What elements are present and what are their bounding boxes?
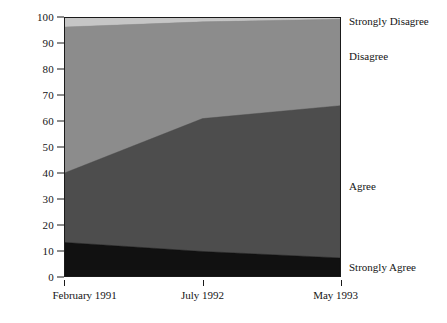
x-tick-mark-2 xyxy=(341,280,342,286)
legend-label-agree: Agree xyxy=(349,180,376,193)
y-tick-mark-100 xyxy=(57,17,64,18)
y-tick-mark-0 xyxy=(57,277,64,278)
y-tick-label-50: 50 xyxy=(43,142,54,153)
stacked-area-chart: 100 90 80 70 60 50 40 30 20 10 0 xyxy=(0,0,447,323)
y-tick-mark-70 xyxy=(57,95,64,96)
legend-label-strongly-agree: Strongly Agree xyxy=(349,260,416,273)
legend-label-strongly-disagree: Strongly Disagree xyxy=(349,14,429,27)
y-tick-mark-50 xyxy=(57,147,64,148)
y-tick-mark-10 xyxy=(57,251,64,252)
y-tick-mark-30 xyxy=(57,199,64,200)
y-tick-mark-60 xyxy=(57,121,64,122)
x-tick-mark-1 xyxy=(203,280,204,286)
y-tick-mark-40 xyxy=(57,173,64,174)
plot-area xyxy=(64,17,341,277)
area-series-svg xyxy=(65,18,340,276)
y-tick-mark-20 xyxy=(57,225,64,226)
y-axis: 100 90 80 70 60 50 40 30 20 10 0 xyxy=(0,0,64,323)
y-tick-label-20: 20 xyxy=(43,220,54,231)
y-tick-label-10: 10 xyxy=(43,246,54,257)
y-tick-label-70: 70 xyxy=(43,90,54,101)
y-tick-mark-90 xyxy=(57,43,64,44)
y-tick-label-60: 60 xyxy=(43,116,54,127)
y-tick-label-80: 80 xyxy=(43,64,54,75)
x-tick-label-feb-1991: February 1991 xyxy=(52,289,116,302)
y-tick-mark-80 xyxy=(57,69,64,70)
x-tick-label-may-1993: May 1993 xyxy=(313,289,358,302)
y-tick-label-40: 40 xyxy=(43,168,54,179)
y-tick-label-100: 100 xyxy=(37,12,54,23)
y-tick-label-90: 90 xyxy=(43,38,54,49)
legend-label-disagree: Disagree xyxy=(349,50,388,63)
x-tick-label-jul-1992: July 1992 xyxy=(181,289,224,302)
y-tick-label-30: 30 xyxy=(43,194,54,205)
x-tick-mark-0 xyxy=(64,280,65,286)
y-tick-label-0: 0 xyxy=(48,272,54,283)
